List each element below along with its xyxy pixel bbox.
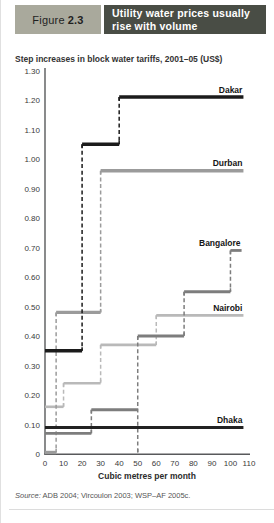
svg-text:1.00: 1.00 <box>24 155 40 164</box>
svg-text:1.30: 1.30 <box>24 67 40 76</box>
svg-text:0.30: 0.30 <box>24 362 40 371</box>
svg-text:0.60: 0.60 <box>24 273 40 282</box>
series-nairobi: Nairobi <box>45 303 243 407</box>
svg-text:1.10: 1.10 <box>24 126 40 135</box>
svg-text:0.90: 0.90 <box>24 185 40 194</box>
svg-text:0.50: 0.50 <box>24 303 40 312</box>
svg-text:90: 90 <box>207 459 216 468</box>
source-text: ADB 2004; Vircoulon 2003; WSP–AF 2005c. <box>41 491 191 500</box>
svg-text:110: 110 <box>243 459 256 468</box>
source-note: Source: ADB 2004; Vircoulon 2003; WSP–AF… <box>15 491 190 500</box>
svg-text:0: 0 <box>36 450 41 459</box>
svg-text:70: 70 <box>170 459 179 468</box>
svg-text:50: 50 <box>133 459 142 468</box>
svg-text:30: 30 <box>96 459 105 468</box>
series-label-nairobi: Nairobi <box>213 303 242 313</box>
svg-text:10: 10 <box>59 459 68 468</box>
svg-text:0.70: 0.70 <box>24 244 40 253</box>
svg-text:20: 20 <box>78 459 87 468</box>
x-axis-title: Cubic metres per month <box>98 471 196 481</box>
series-label-dhaka: Dhaka <box>217 415 243 425</box>
step-chart: 1.301.201.101.000.900.800.700.600.500.40… <box>1 0 274 523</box>
series-label-dakar: Dakar <box>219 85 243 95</box>
figure-2-3: Figure2.3 Utility water prices usuallyri… <box>0 0 274 523</box>
svg-text:0.40: 0.40 <box>24 332 40 341</box>
series-dhaka: Dhaka <box>45 415 243 428</box>
svg-text:1.20: 1.20 <box>24 96 40 105</box>
x-tick-labels: 0102030405060708090100110 <box>43 459 256 468</box>
svg-text:0.10: 0.10 <box>24 421 40 430</box>
svg-text:0: 0 <box>43 459 48 468</box>
svg-text:0.20: 0.20 <box>24 391 40 400</box>
axes <box>44 68 250 455</box>
source-label: Source: <box>15 491 41 500</box>
series-label-durban: Durban <box>213 158 243 168</box>
svg-text:60: 60 <box>152 459 161 468</box>
svg-text:0.80: 0.80 <box>24 214 40 223</box>
figure-bottom-rule <box>9 509 274 510</box>
y-tick-labels: 1.301.201.101.000.900.800.700.600.500.40… <box>24 67 40 460</box>
svg-text:40: 40 <box>115 459 124 468</box>
svg-text:80: 80 <box>189 459 198 468</box>
svg-text:100: 100 <box>224 459 238 468</box>
series-label-bangalore: Bangalore <box>199 238 241 248</box>
